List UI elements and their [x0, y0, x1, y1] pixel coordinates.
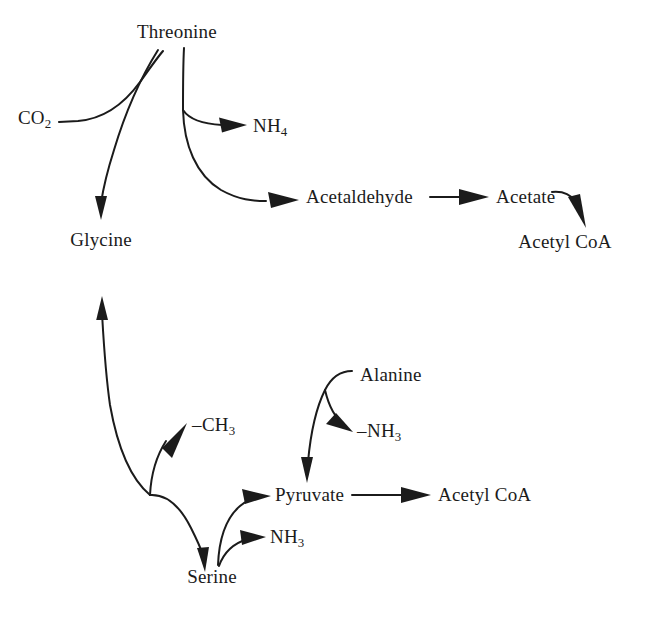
node-label-threonine: Threonine — [137, 22, 217, 41]
arrowhead-acetaldehyde — [268, 192, 299, 208]
arrowhead-nh3-alanine — [326, 413, 353, 432]
node-label-acetyl-coa-bottom: Acetyl CoA — [438, 485, 531, 504]
arrowhead-glycine — [95, 196, 107, 220]
node-label-methyl-group: –CH3 — [192, 415, 235, 434]
node-label-acetaldehyde: Acetaldehyde — [306, 187, 413, 206]
node-label-serine: Serine — [187, 567, 237, 586]
node-label-acetate: Acetate — [496, 187, 555, 206]
node-label-nh3-from-alanine: –NH3 — [357, 421, 401, 440]
arrowhead-acetate — [459, 189, 489, 205]
edge-alanine-to-pyruvate — [308, 371, 352, 462]
arrowhead-glycine-from-serine — [96, 296, 108, 320]
arrowhead-pyruvate-from-serine — [242, 489, 271, 504]
arrowhead-nh3-serine — [240, 530, 266, 545]
node-label-alanine: Alanine — [360, 365, 422, 384]
edge-threonine-trunk — [183, 48, 184, 110]
arrowhead-acetyl-coa-2 — [401, 487, 431, 503]
edge-junction-to-serine — [150, 495, 203, 555]
node-label-co2: CO2 — [18, 108, 51, 127]
node-label-nh4: NH4 — [253, 116, 287, 135]
edge-threonine-to-nh4 — [183, 110, 222, 125]
node-label-glycine: Glycine — [70, 230, 132, 249]
pathway-arrows-layer — [0, 0, 659, 620]
edge-serine-to-glycine — [102, 313, 150, 495]
edge-co2-to-threonine — [59, 51, 163, 122]
arrowhead-pyruvate-from-alanine — [301, 457, 313, 483]
arrowhead-acetyl-coa-1 — [568, 194, 586, 228]
edge-threonine-to-glycine — [101, 50, 158, 203]
node-label-pyruvate: Pyruvate — [275, 485, 344, 504]
arrowhead-nh4 — [219, 118, 247, 133]
pathway-diagram: Threonine CO2 NH4 Glycine Acetaldehyde A… — [0, 0, 659, 620]
node-label-acetyl-coa-top: Acetyl CoA — [518, 232, 611, 251]
node-label-nh3-from-serine: NH3 — [270, 527, 304, 546]
